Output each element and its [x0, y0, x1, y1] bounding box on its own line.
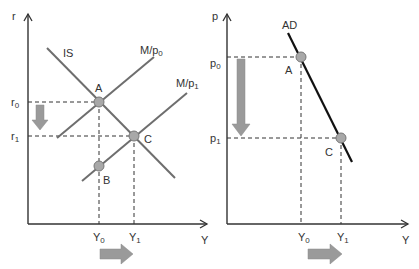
point-a-label-left: A — [95, 82, 103, 94]
lm-curve-p0 — [57, 57, 154, 138]
lm-p0-label: M/p0 — [140, 44, 163, 58]
point-a-right — [296, 52, 306, 62]
y-axis-label-left: Y — [201, 234, 209, 246]
r1-label: r1 — [11, 130, 20, 144]
right-panel-ad: p Y AD A C p0 p1 Y0 Y1 — [210, 10, 410, 264]
point-a-left — [94, 97, 104, 107]
y-axis-label-right: Y — [402, 234, 410, 246]
down-arrow-left — [32, 105, 48, 130]
point-c-label-left: C — [144, 133, 152, 145]
point-c-right — [336, 133, 346, 143]
y1-label-left: Y1 — [129, 231, 141, 245]
right-arrow-right — [308, 244, 342, 264]
right-arrow-left — [100, 244, 133, 264]
point-b-label: B — [103, 174, 110, 186]
point-c-label-right: C — [325, 146, 333, 158]
point-c-left — [129, 131, 139, 141]
r-axis-label: r — [12, 10, 16, 22]
ad-label: AD — [282, 19, 297, 31]
is-lm-ad-diagram: r Y IS M/p0 M/p1 A B C r0 r1 Y0 Y1 p Y A… — [0, 0, 419, 269]
y1-label-right: Y1 — [337, 231, 349, 245]
p-axis-label: p — [212, 10, 218, 22]
down-arrow-right — [232, 59, 250, 136]
y0-label-right: Y0 — [298, 231, 310, 245]
p0-label: p0 — [210, 57, 221, 71]
p1-label: p1 — [210, 132, 221, 146]
r0-label: r0 — [11, 96, 20, 110]
lm-p1-label: M/p1 — [176, 77, 199, 91]
left-panel-islm: r Y IS M/p0 M/p1 A B C r0 r1 Y0 Y1 — [11, 10, 209, 264]
is-curve — [47, 48, 175, 178]
point-b-left — [94, 161, 104, 171]
point-a-label-right: A — [285, 64, 293, 76]
y0-label-left: Y0 — [93, 231, 105, 245]
is-label: IS — [63, 47, 73, 59]
